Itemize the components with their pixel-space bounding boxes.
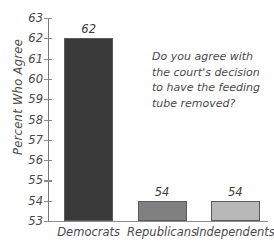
y-axis-tick-label: 62 bbox=[28, 31, 43, 45]
y-axis-tick-label: 60 bbox=[28, 72, 43, 86]
y-axis-tick-mark bbox=[44, 99, 52, 100]
y-axis-tick-mark bbox=[44, 180, 52, 181]
bar: 62 bbox=[64, 38, 113, 221]
bar-chart: Percent Who Agree 5354555657585960616263… bbox=[0, 0, 274, 249]
y-axis-tick-label: 53 bbox=[28, 214, 43, 228]
y-axis-tick-mark bbox=[44, 221, 52, 222]
bar: 54 bbox=[211, 201, 260, 221]
annotation-line: tube removed? bbox=[152, 96, 270, 112]
x-axis-category-label: Democrats bbox=[57, 225, 120, 239]
y-axis-tick-label: 61 bbox=[28, 52, 43, 66]
y-axis-tick-mark bbox=[44, 38, 52, 39]
y-axis-tick-label: 57 bbox=[28, 133, 43, 147]
y-axis-tick-label: 63 bbox=[28, 11, 43, 25]
bar-value-label: 54 bbox=[228, 185, 243, 199]
bar: 54 bbox=[138, 201, 187, 221]
x-axis-line bbox=[48, 221, 268, 222]
y-axis-tick-mark bbox=[44, 120, 52, 121]
annotation-line: the court's decision bbox=[152, 65, 270, 81]
bar-value-label: 62 bbox=[81, 22, 96, 36]
y-axis-tick-mark bbox=[44, 18, 52, 19]
x-axis-category-label: Independents bbox=[196, 225, 274, 239]
y-axis-tick-label: 58 bbox=[28, 113, 43, 127]
y-axis-tick-mark bbox=[44, 79, 52, 80]
annotation-line: Do you agree with bbox=[152, 49, 270, 65]
bar-value-label: 54 bbox=[155, 185, 170, 199]
annotation-line: to have the feeding bbox=[152, 80, 270, 96]
survey-question-annotation: Do you agree withthe court's decisionto … bbox=[152, 49, 270, 111]
y-axis-tick-mark bbox=[44, 140, 52, 141]
y-axis-tick-mark bbox=[44, 59, 52, 60]
y-axis-tick-label: 59 bbox=[28, 92, 43, 106]
y-axis-title: Percent Who Agree bbox=[11, 17, 25, 177]
x-axis-category-label: Republicans bbox=[127, 225, 197, 239]
y-axis-tick-label: 55 bbox=[28, 173, 43, 187]
y-axis-tick-label: 54 bbox=[28, 194, 43, 208]
y-axis-tick-mark bbox=[44, 160, 52, 161]
y-axis-tick-label: 56 bbox=[28, 153, 43, 167]
y-axis-tick-mark bbox=[44, 201, 52, 202]
